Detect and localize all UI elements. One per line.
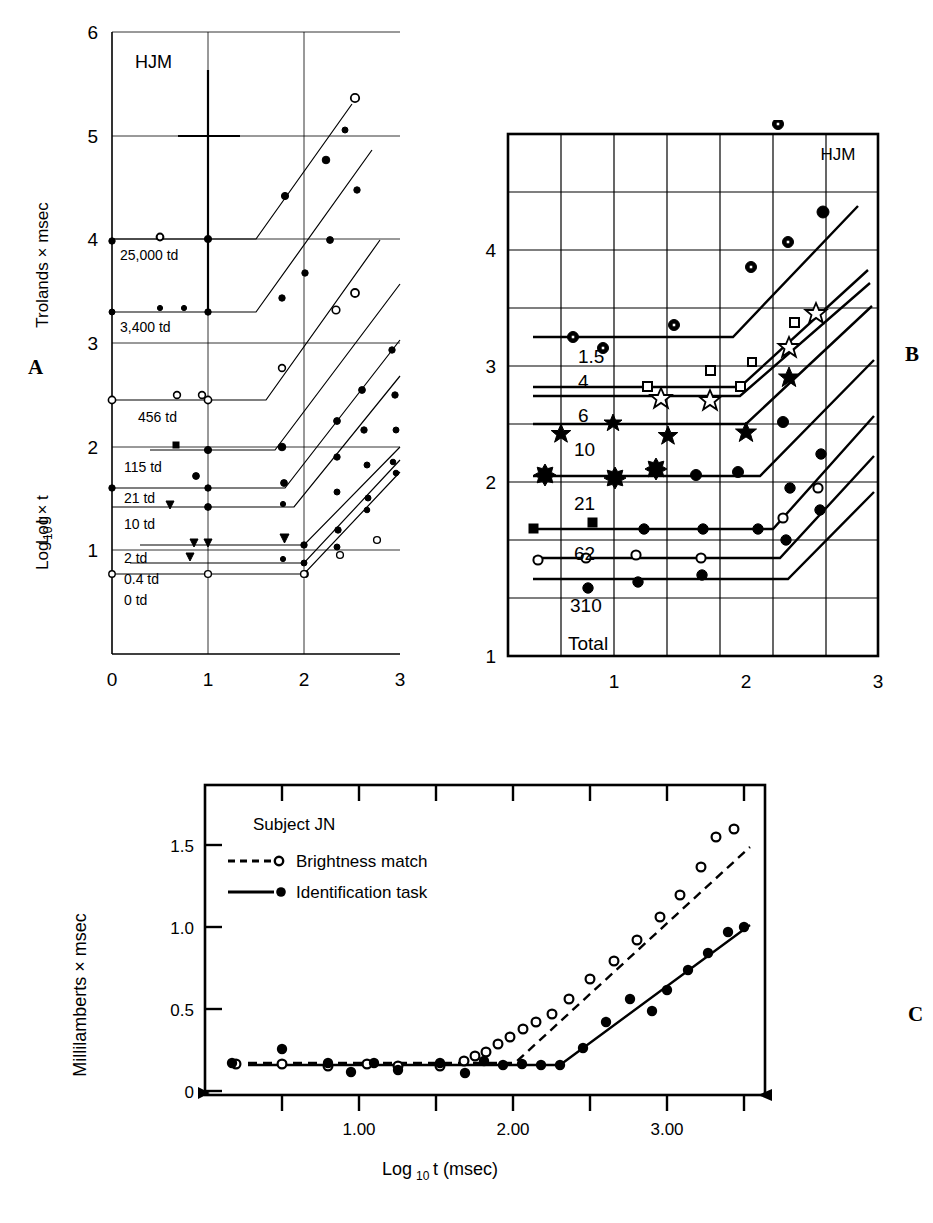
svg-text:21: 21 xyxy=(574,493,595,514)
svg-text:1.00: 1.00 xyxy=(342,1120,375,1139)
svg-text:I × t: I × t xyxy=(33,495,52,524)
svg-text:Brightness match: Brightness match xyxy=(296,852,427,871)
svg-text:0: 0 xyxy=(107,669,118,690)
svg-text:1.5: 1.5 xyxy=(170,837,194,856)
svg-text:0.4 td: 0.4 td xyxy=(124,571,159,587)
panel-a-chart: Trolands × msec Log Log 10 I × t 6 xyxy=(0,10,420,710)
panel-c-legend: Brightness match Identification task xyxy=(228,852,428,902)
figure-root: A Trolands × msec Log Log 10 I × t xyxy=(0,0,933,1223)
svg-text:1.5: 1.5 xyxy=(578,346,604,367)
svg-text:3: 3 xyxy=(395,669,406,690)
svg-text:1: 1 xyxy=(485,646,496,667)
svg-text:Total: Total xyxy=(568,633,608,654)
panel-c-xticks xyxy=(282,785,744,1111)
svg-text:Millilamberts × msec: Millilamberts × msec xyxy=(70,913,90,1077)
svg-text:3.00: 3.00 xyxy=(650,1120,683,1139)
svg-text:5: 5 xyxy=(87,126,98,147)
svg-text:456 td: 456 td xyxy=(138,409,177,425)
svg-text:4: 4 xyxy=(578,371,589,392)
panel-c-ylabel: Millilamberts × msec xyxy=(70,913,90,1077)
legend-item-brightness-match: Brightness match xyxy=(228,852,427,871)
panel-a-curves xyxy=(112,104,400,574)
svg-text:25,000 td: 25,000 td xyxy=(120,247,178,263)
svg-text:2: 2 xyxy=(741,671,752,692)
panel-letter-c: C xyxy=(908,1002,923,1027)
panel-b-chart: 4 3 2 1 1 2 3 HJM xyxy=(438,120,908,700)
svg-text:1: 1 xyxy=(203,669,214,690)
panel-a-ylabel-top: Trolands × msec xyxy=(33,202,52,328)
svg-text:3: 3 xyxy=(873,671,884,692)
svg-text:6: 6 xyxy=(87,22,98,43)
svg-text:2.00: 2.00 xyxy=(496,1120,529,1139)
svg-text:310: 310 xyxy=(570,595,602,616)
svg-text:Identification task: Identification task xyxy=(296,883,428,902)
panel-c-xtick-labels: 1.00 2.00 3.00 xyxy=(342,1120,683,1139)
svg-text:0 td: 0 td xyxy=(124,592,147,608)
panel-b-curves xyxy=(533,206,874,579)
svg-text:4: 4 xyxy=(87,229,98,250)
panel-c-fit-brightness-match xyxy=(248,847,750,1063)
svg-text:10: 10 xyxy=(574,439,595,460)
panel-a-crosshair-mark xyxy=(178,70,240,310)
svg-text:2: 2 xyxy=(485,472,496,493)
svg-text:t (msec): t (msec) xyxy=(433,1159,498,1179)
svg-text:6: 6 xyxy=(578,405,589,426)
svg-text:4: 4 xyxy=(485,240,496,261)
panel-a-curve-labels: 25,000 td 3,400 td 456 td 115 td 21 td 1… xyxy=(120,247,178,608)
svg-text:3,400 td: 3,400 td xyxy=(120,319,171,335)
svg-text:3: 3 xyxy=(87,333,98,354)
legend-item-identification-task: Identification task xyxy=(228,883,428,902)
panel-c-ytick-labels: 1.5 1.0 0.5 0 xyxy=(170,837,194,1102)
svg-text:2: 2 xyxy=(299,669,310,690)
svg-text:10: 10 xyxy=(41,526,55,540)
svg-text:1: 1 xyxy=(87,540,98,561)
svg-text:0: 0 xyxy=(185,1083,194,1102)
panel-c-xlabel: Log 10 t (msec) xyxy=(382,1159,498,1183)
svg-text:2 td: 2 td xyxy=(124,550,147,566)
panel-b-subject-label: HJM xyxy=(821,145,856,164)
panel-c-chart: Millilamberts × msec Log 10 t (msec) 1.5… xyxy=(60,775,840,1223)
svg-text:10: 10 xyxy=(416,1169,430,1183)
svg-text:Log: Log xyxy=(33,542,52,570)
panel-c-subject-label: Subject JN xyxy=(253,815,335,834)
svg-text:1.0: 1.0 xyxy=(170,919,194,938)
svg-text:10 td: 10 td xyxy=(124,516,155,532)
svg-text:1: 1 xyxy=(609,671,620,692)
svg-text:62: 62 xyxy=(574,543,595,564)
svg-text:0.5: 0.5 xyxy=(170,1001,194,1020)
svg-text:3: 3 xyxy=(485,356,496,377)
panel-a-xtick-labels: 0 1 2 3 xyxy=(107,669,406,690)
panel-a-subject-label: HJM xyxy=(135,52,172,72)
svg-text:Log: Log xyxy=(382,1159,412,1179)
panel-a-ytick-labels: 6 5 4 3 2 1 xyxy=(87,22,98,561)
panel-a-axes xyxy=(112,32,400,654)
svg-text:115 td: 115 td xyxy=(124,459,162,475)
panel-b-xtick-labels: 1 2 3 xyxy=(609,671,884,692)
panel-b-ytick-labels: 4 3 2 1 xyxy=(485,240,496,667)
panel-c-yticks xyxy=(205,845,222,1091)
panel-b-curve-labels: 1.5 4 6 10 21 62 310 Total xyxy=(568,346,608,654)
svg-text:2: 2 xyxy=(87,437,98,458)
svg-text:21 td: 21 td xyxy=(124,490,155,506)
